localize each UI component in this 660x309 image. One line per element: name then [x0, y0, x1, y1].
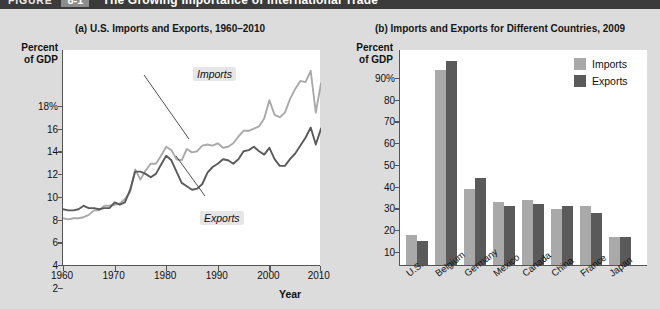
panel-b-ytick-80: 80	[365, 95, 395, 106]
panel-a-tick-y-6	[58, 242, 63, 243]
legend-item-exports: Exports	[574, 75, 628, 87]
imports-line	[63, 71, 321, 220]
imports-leader-line	[144, 75, 189, 139]
bar-exports-belgium	[446, 61, 457, 265]
panel-b-ytick-10: 10	[365, 247, 395, 258]
panel-a-ytick-6: 6	[28, 237, 58, 248]
panel-a-xlabel-2010: 2010	[299, 270, 339, 281]
panel-b-ytick-70: 70	[365, 116, 395, 127]
figure-word: FIGURE	[0, 0, 52, 6]
panel-b-tick-y-80	[395, 100, 400, 101]
exports-leader-line	[176, 156, 205, 196]
legend-swatch-exports-icon	[574, 75, 586, 87]
panel-a-tick-y-18	[58, 106, 63, 107]
panel-b-ytick-30: 30	[365, 203, 395, 214]
panel-a-ytick-16: 16	[28, 124, 58, 135]
panel-a-ytick-8: 8	[28, 215, 58, 226]
panel-a-tick-y-12	[58, 174, 63, 175]
panel-a-tick-y-16	[58, 129, 63, 130]
bar-imports-france	[580, 206, 591, 265]
legend-label-imports: Imports	[592, 58, 627, 70]
figure-header-bar: FIGURE 8-1 The Growing Importance of Int…	[0, 0, 660, 9]
panel-a-xlabel-2000: 2000	[248, 270, 288, 281]
figure-title: The Growing Importance of International …	[102, 0, 378, 7]
bar-imports-china	[551, 209, 562, 265]
panel-a-x-axis-title: Year	[279, 288, 301, 300]
panel-a-ytick-10: 10	[28, 192, 58, 203]
bar-imports-belgium	[435, 70, 446, 265]
panel-b-ytick-50: 50	[365, 160, 395, 171]
panel-a-plot-area	[62, 50, 320, 266]
panel-a-ytick-14: 14	[28, 146, 58, 157]
panel-b-tick-y-20	[395, 230, 400, 231]
panel-a-xlabel-1970: 1970	[94, 270, 134, 281]
panel-a-ytick-18: 18%	[28, 101, 58, 112]
panel-b-tick-y-10	[395, 252, 400, 253]
panel-a-ytick-12: 12	[28, 169, 58, 180]
bar-imports-canada	[522, 200, 533, 265]
panel-a-xlabel-1960: 1960	[42, 270, 82, 281]
panel-b-ytick-60: 60	[365, 138, 395, 149]
panel-a-tick-y-10	[58, 197, 63, 198]
panel-b-tick-y-40	[395, 187, 400, 188]
panel-a-line-chart	[63, 50, 321, 266]
panel-a-tick-y-8	[58, 220, 63, 221]
panel-b-ytick-40: 40	[365, 182, 395, 193]
panel-a-title: (a) U.S. Imports and Exports, 1960–2010	[0, 22, 340, 36]
panel-a: (a) U.S. Imports and Exports, 1960–2010	[0, 22, 340, 36]
exports-line	[63, 128, 321, 211]
panel-a-tick-y-14	[58, 151, 63, 152]
panel-b-tick-y-60	[395, 143, 400, 144]
panel-b-title: (b) Imports and Exports for Different Co…	[340, 22, 660, 36]
panel-b-y-axis-title: Percent of GDP	[343, 42, 393, 65]
panel-b: (b) Imports and Exports for Different Co…	[340, 22, 660, 36]
panel-b-legend: Imports Exports	[574, 58, 628, 92]
panel-b-ytick-20: 20	[365, 225, 395, 236]
panel-a-y-axis-title: Percent of GDP	[6, 42, 58, 65]
panel-a-xlabel-1990: 1990	[197, 270, 237, 281]
legend-swatch-imports-icon	[574, 58, 586, 70]
bar-imports-germany	[464, 189, 475, 265]
figure-number-badge: 8-1	[61, 0, 89, 7]
panel-a-ytick-2: 2	[28, 283, 58, 294]
legend-item-imports: Imports	[574, 58, 628, 70]
legend-label-exports: Exports	[592, 75, 628, 87]
panel-b-tick-y-70	[395, 121, 400, 122]
panel-b-ytick-90: 90%	[365, 73, 395, 84]
panel-b-tick-y-90	[395, 78, 400, 79]
figure-container: FIGURE 8-1 The Growing Importance of Int…	[0, 0, 660, 309]
panel-a-tick-y-2	[58, 288, 63, 289]
imports-label: Imports	[193, 67, 236, 81]
panel-b-tick-y-50	[395, 165, 400, 166]
panel-b-tick-y-30	[395, 208, 400, 209]
exports-label: Exports	[200, 211, 244, 225]
panel-a-xlabel-1980: 1980	[145, 270, 185, 281]
